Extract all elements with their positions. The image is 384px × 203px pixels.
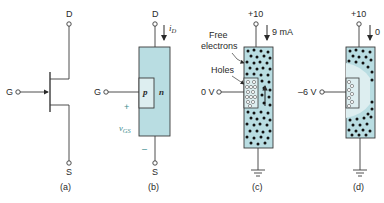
drain-label: D bbox=[66, 9, 73, 19]
current-value: 9 mA bbox=[272, 27, 293, 37]
panel-c-zero-bias: +10 9 mA Free electrons Holes bbox=[201, 9, 293, 192]
panel-a-jfet-symbol: D S G (a) bbox=[6, 9, 73, 192]
panel-d-pinch-off: +10 0 –6 V bbox=[298, 9, 380, 192]
supply-terminal bbox=[357, 22, 361, 26]
gate-voltage: –6 V bbox=[298, 87, 317, 97]
free-electrons-label-2: electrons bbox=[201, 41, 238, 51]
gate-terminal bbox=[320, 90, 324, 94]
source-label: S bbox=[66, 167, 72, 177]
ground-icon bbox=[353, 170, 367, 176]
jfet-diagram: D S G (a) D iD p n G + vGS – S (b) bbox=[0, 0, 384, 203]
free-electrons-label: Free bbox=[209, 30, 228, 40]
gate-terminal bbox=[104, 90, 108, 94]
holes-label: Holes bbox=[211, 65, 235, 75]
source-terminal bbox=[153, 161, 157, 165]
gate-label: G bbox=[6, 87, 13, 97]
caption-b: (b) bbox=[148, 182, 159, 192]
n-region-label: n bbox=[159, 87, 164, 97]
vgs-label: vGS bbox=[119, 123, 131, 134]
vgs-plus: + bbox=[124, 102, 129, 112]
gate-voltage: 0 V bbox=[201, 87, 215, 97]
p-region-label: p bbox=[142, 87, 148, 97]
caption-d: (d) bbox=[353, 182, 364, 192]
caption-a: (a) bbox=[60, 182, 71, 192]
source-terminal bbox=[67, 161, 71, 165]
drain-label: D bbox=[152, 9, 159, 19]
panel-b-structure: D iD p n G + vGS – S (b) bbox=[94, 9, 177, 192]
drain-terminal bbox=[153, 22, 157, 26]
current-value: 0 bbox=[375, 27, 380, 37]
gate-terminal bbox=[16, 90, 20, 94]
gate-label: G bbox=[94, 87, 101, 97]
p-gate-region bbox=[244, 78, 258, 108]
pointer-arrow-icon bbox=[232, 76, 244, 84]
caption-c: (c) bbox=[252, 182, 263, 192]
supply-label: +10 bbox=[248, 9, 263, 19]
ground-icon bbox=[251, 170, 265, 176]
pointer-arrow-icon bbox=[232, 53, 244, 63]
vgs-minus: – bbox=[142, 144, 147, 154]
current-label: iD bbox=[169, 23, 177, 34]
drain-terminal bbox=[67, 22, 71, 26]
supply-terminal bbox=[254, 22, 258, 26]
supply-label: +10 bbox=[351, 9, 366, 19]
gate-terminal bbox=[217, 90, 221, 94]
source-label: S bbox=[152, 167, 158, 177]
